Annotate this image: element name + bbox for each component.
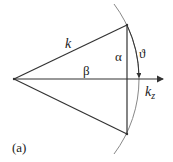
k-label: k <box>65 36 72 51</box>
theta-label: ϑ <box>139 46 146 61</box>
panel-label: (a) <box>12 140 26 155</box>
beta-label: β <box>83 63 90 78</box>
kz-label: kz <box>145 84 155 101</box>
wave-vector-diagram: k β α ϑ kz (a) <box>0 0 173 162</box>
kz-label-subscript: z <box>150 90 155 101</box>
lower-k-vector <box>14 79 127 134</box>
alpha-label: α <box>115 49 122 64</box>
bottom-vertex <box>126 133 128 135</box>
theta-arrow <box>127 25 139 77</box>
upper-k-vector <box>14 25 127 79</box>
top-vertex <box>126 24 128 26</box>
apex-point <box>13 78 15 80</box>
